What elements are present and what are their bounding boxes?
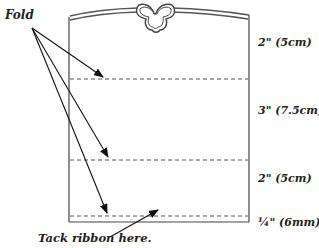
measurement-label-2: 3" (7.5cm) bbox=[258, 104, 319, 117]
measurement-label-3: 2" (5cm) bbox=[258, 172, 312, 185]
arrow-to-fold-2 bbox=[32, 28, 108, 157]
measurement-label-1: 2" (5cm) bbox=[258, 36, 312, 49]
fold-lines bbox=[70, 79, 248, 216]
fold-arrows bbox=[32, 28, 108, 213]
tack-ribbon-label: Tack ribbon here. bbox=[38, 231, 151, 245]
fabric-panel bbox=[69, 15, 249, 222]
arrow-to-fold-1 bbox=[32, 28, 103, 77]
measurement-label-4: ¼" (6mm) bbox=[258, 216, 319, 229]
bow-knot-icon bbox=[137, 4, 175, 32]
fold-label: Fold bbox=[5, 8, 34, 22]
